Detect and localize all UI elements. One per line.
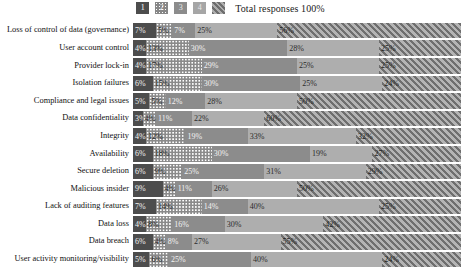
legend-item-1: 1 bbox=[136, 2, 149, 14]
bar-segment-value: 4% bbox=[135, 132, 146, 141]
bar-segment-series-5: 50% bbox=[297, 181, 461, 197]
bar-segment-value: 15% bbox=[155, 79, 170, 88]
bar-segment-value: 9% bbox=[155, 167, 166, 176]
bar-segment-value: 30% bbox=[227, 220, 242, 229]
bar-segment-value: 4% bbox=[135, 220, 146, 229]
solid-dark-swatch: 1 bbox=[136, 2, 149, 14]
category-label: Provider lock-in bbox=[0, 62, 133, 71]
stacked-bar: 7%5%7%25%56% bbox=[133, 23, 461, 39]
bar-segment-series-3: 11% bbox=[156, 111, 192, 127]
dotted-swatch: 2 bbox=[155, 2, 168, 14]
chart-row: Provider lock-in4%17%29%25%25% bbox=[0, 57, 461, 74]
bar-segment-series-4: 26% bbox=[212, 181, 297, 197]
category-label: Data breach bbox=[0, 237, 133, 246]
stacked-bar: 7%14%14%40%25% bbox=[133, 199, 461, 215]
bar-segment-series-1: 6% bbox=[133, 76, 153, 92]
bar-segment-value: 14% bbox=[158, 202, 173, 211]
bar-segment-value: 28% bbox=[289, 44, 304, 53]
bar-segment-value: 27% bbox=[194, 237, 209, 246]
bar-segment-series-4: 28% bbox=[205, 93, 297, 109]
bar-segment-value: 6% bbox=[151, 255, 162, 264]
bar-segment-value: 12% bbox=[148, 132, 163, 141]
bar-segment-series-2: 13% bbox=[146, 40, 189, 56]
bar-segment-series-3: 25% bbox=[182, 164, 264, 180]
bar-segment-series-5: 24% bbox=[382, 76, 461, 92]
stacked-bar-chart: 1 2 3 4 Total responses 100% Loss of con… bbox=[0, 0, 461, 274]
bar-segment-value: 24% bbox=[384, 255, 399, 264]
bar-segment-value: 42% bbox=[325, 220, 340, 229]
stacked-bar: 9%4%11%26%50% bbox=[133, 181, 461, 197]
bar-segment-value: 50% bbox=[299, 97, 314, 106]
bar-segment-series-1: 6% bbox=[133, 146, 153, 162]
bar-segment-series-2: 12% bbox=[146, 128, 185, 144]
bar-segment-value: 25% bbox=[302, 79, 317, 88]
category-label: Availability bbox=[0, 150, 133, 159]
bar-segment-series-2: 8% bbox=[146, 216, 172, 232]
bar-segment-series-3: 30% bbox=[202, 76, 300, 92]
bar-segment-value: 16% bbox=[174, 220, 189, 229]
bar-segment-value: 26% bbox=[214, 184, 229, 193]
bar-segment-value: 24% bbox=[384, 79, 399, 88]
bar-segment-value: 50% bbox=[299, 184, 314, 193]
bar-segment-series-1: 5% bbox=[133, 93, 149, 109]
bar-segment-series-3: 8% bbox=[166, 234, 192, 250]
stacked-bar: 3%4%11%22%60% bbox=[133, 111, 461, 127]
stacked-bar: 6%15%30%25%24% bbox=[133, 76, 461, 92]
bar-segment-value: 31% bbox=[266, 167, 281, 176]
bar-segment-series-1: 9% bbox=[133, 181, 163, 197]
bar-segment-value: 8% bbox=[148, 220, 159, 229]
bar-segment-series-2: 17% bbox=[146, 58, 202, 74]
category-label: Data confidentiality bbox=[0, 114, 133, 123]
solid-medium-swatch: 3 bbox=[174, 2, 187, 14]
bar-segment-series-5: 24% bbox=[382, 252, 461, 268]
bar-segment-value: 5% bbox=[135, 97, 146, 106]
bar-segment-value: 18% bbox=[155, 149, 170, 158]
bar-segment-series-1: 4% bbox=[133, 128, 146, 144]
chart-row: User account control4%13%30%28%25% bbox=[0, 40, 461, 57]
bar-segment-series-5: 50% bbox=[297, 93, 461, 109]
bar-segment-value: 5% bbox=[135, 255, 146, 264]
solid-light-swatch: 4 bbox=[193, 2, 206, 14]
bar-segment-series-1: 6% bbox=[133, 234, 153, 250]
bar-segment-value: 25% bbox=[299, 61, 314, 70]
bar-segment-series-2: 4% bbox=[153, 234, 166, 250]
bar-segment-value: 4% bbox=[135, 44, 146, 53]
chart-row: Malicious insider9%4%11%26%50% bbox=[0, 180, 461, 197]
bar-segment-value: 7% bbox=[174, 26, 185, 35]
bar-segment-value: 6% bbox=[135, 149, 146, 158]
bar-segment-value: 6% bbox=[135, 79, 146, 88]
bar-segment-series-3: 29% bbox=[202, 58, 297, 74]
bar-segment-series-3: 11% bbox=[176, 181, 212, 197]
stacked-bar: 6%9%25%31%29% bbox=[133, 164, 461, 180]
diagonal-hatch-swatch bbox=[212, 2, 225, 14]
bar-segment-series-3: 19% bbox=[185, 128, 247, 144]
bar-segment-value: 25% bbox=[381, 202, 396, 211]
bar-segment-value: 7% bbox=[135, 202, 146, 211]
category-label: Data loss bbox=[0, 220, 133, 229]
chart-row: Data confidentiality3%4%11%22%60% bbox=[0, 110, 461, 127]
bar-segment-series-4: 25% bbox=[297, 58, 379, 74]
stacked-bar: 5%5%12%28%50% bbox=[133, 93, 461, 109]
legend-item-2: 2 bbox=[155, 2, 168, 14]
bar-segment-value: 11% bbox=[178, 184, 192, 193]
bar-segment-series-2: 4% bbox=[143, 111, 156, 127]
stacked-bar: 4%13%30%28%25% bbox=[133, 40, 461, 56]
bar-segment-series-5: 25% bbox=[379, 58, 461, 74]
bar-segment-value: 25% bbox=[171, 255, 186, 264]
bar-segment-value: 4% bbox=[165, 184, 176, 193]
bar-segment-value: 14% bbox=[204, 202, 219, 211]
category-label: User account control bbox=[0, 44, 133, 53]
bar-segment-series-4: 40% bbox=[248, 199, 379, 215]
bar-segment-value: 8% bbox=[168, 237, 179, 246]
bar-segment-value: 4% bbox=[135, 61, 146, 70]
chart-row: Integrity4%12%19%33%32% bbox=[0, 128, 461, 145]
bar-segment-value: 40% bbox=[250, 202, 265, 211]
stacked-bar: 6%18%30%19%27% bbox=[133, 146, 461, 162]
bar-segment-value: 27% bbox=[374, 149, 389, 158]
bar-segment-value: 33% bbox=[250, 132, 265, 141]
bar-segment-series-5: 25% bbox=[379, 40, 461, 56]
category-label: Integrity bbox=[0, 132, 133, 141]
bar-segment-series-4: 27% bbox=[192, 234, 281, 250]
stacked-bar: 6%4%8%27%55% bbox=[133, 234, 461, 250]
legend-item-4: 4 bbox=[193, 2, 206, 14]
